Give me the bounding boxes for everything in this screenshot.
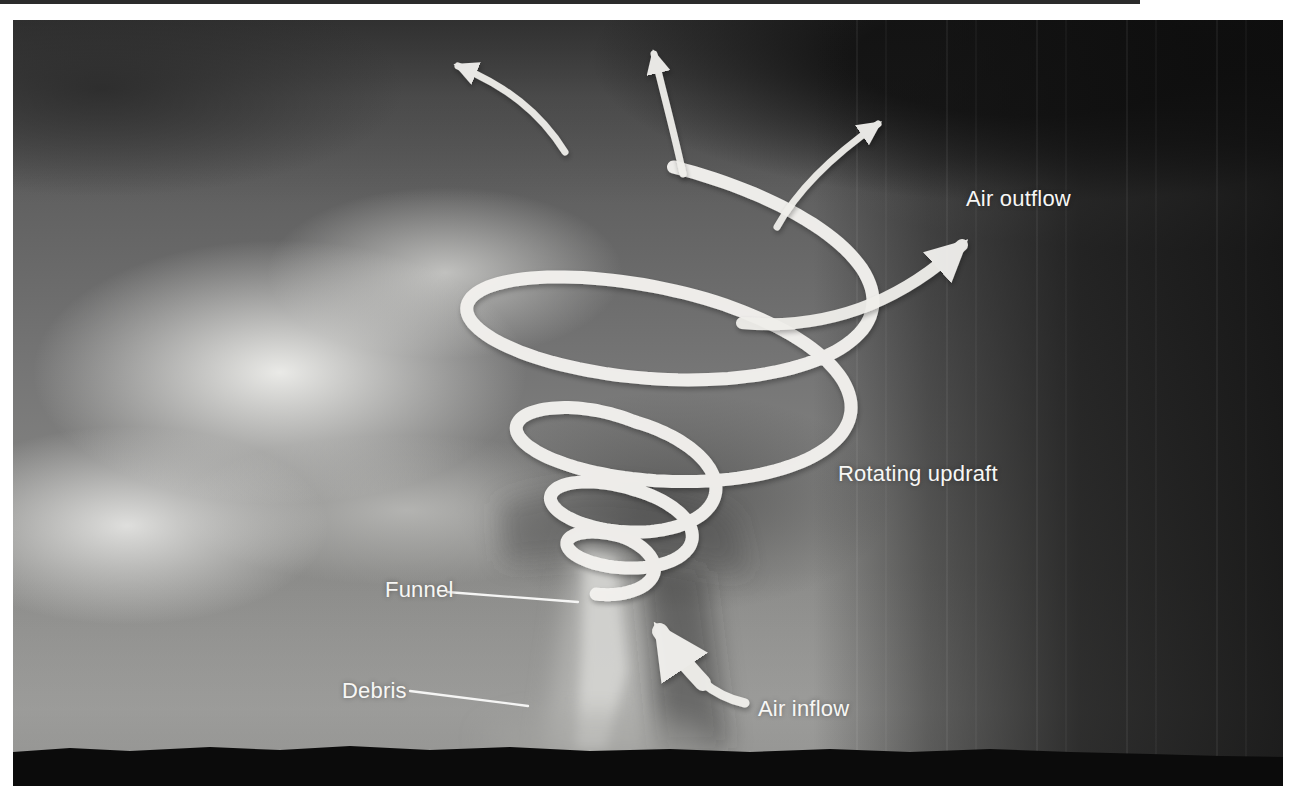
top-strip — [0, 0, 1140, 4]
label-rotating-updraft: Rotating updraft — [838, 461, 998, 487]
figure-canvas: Air outflow Rotating updraft Funnel Debr… — [0, 0, 1302, 790]
label-air-outflow: Air outflow — [966, 186, 1071, 212]
film-scan-streaks — [826, 20, 1283, 786]
label-air-inflow: Air inflow — [758, 696, 849, 722]
tornado-photo — [13, 20, 1283, 786]
label-debris: Debris — [342, 678, 407, 704]
label-funnel: Funnel — [385, 577, 453, 603]
